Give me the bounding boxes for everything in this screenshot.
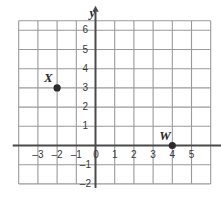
y-tick-label: 6 bbox=[77, 25, 94, 35]
point-label: W bbox=[159, 129, 171, 142]
x-tick-label: 1 bbox=[105, 150, 124, 160]
x-tick-label: 3 bbox=[144, 150, 163, 160]
y-axis-label: y bbox=[90, 6, 96, 19]
plotted-point bbox=[54, 84, 61, 91]
y-tick-label: –1 bbox=[77, 160, 94, 170]
x-tick-label: 5 bbox=[182, 150, 201, 160]
y-tick-label: 2 bbox=[77, 102, 94, 112]
x-tick-label: –2 bbox=[48, 150, 67, 160]
y-tick-label: 1 bbox=[77, 121, 94, 131]
y-tick-label: 3 bbox=[77, 83, 94, 93]
y-tick-label: 5 bbox=[77, 45, 94, 55]
x-tick-label: –3 bbox=[28, 150, 47, 160]
grid-and-axes bbox=[0, 0, 221, 199]
x-tick-label: 4 bbox=[163, 150, 182, 160]
coordinate-plane-figure: –3–2–1012345–2–1123456 XW y x bbox=[0, 0, 221, 199]
y-tick-label: –2 bbox=[77, 179, 94, 189]
point-label: X bbox=[44, 71, 53, 84]
y-tick-label: 4 bbox=[77, 64, 94, 74]
x-tick-label: 2 bbox=[124, 150, 143, 160]
